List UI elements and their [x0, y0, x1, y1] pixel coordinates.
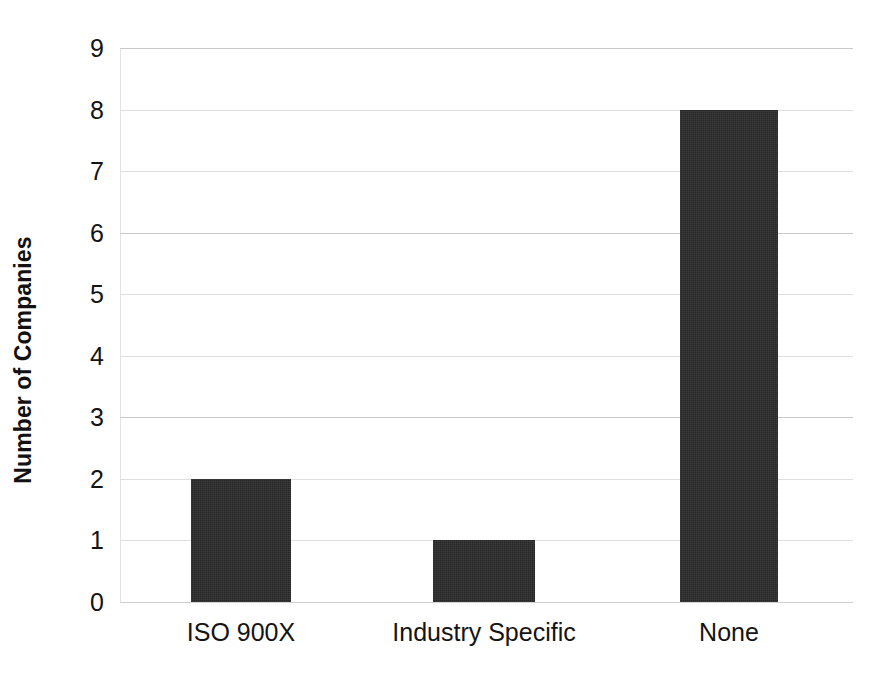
y-axis-tick-4: 4 — [58, 343, 104, 368]
y-axis-tick-0: 0 — [58, 590, 104, 615]
y-axis-tick-8: 8 — [58, 97, 104, 122]
y-axis-tick-1: 1 — [58, 528, 104, 553]
y-axis-tick-9: 9 — [58, 36, 104, 61]
bar-iso-900x[interactable] — [191, 479, 291, 602]
y-axis-tick-7: 7 — [58, 159, 104, 184]
y-axis-title-label: Number of Companies — [10, 236, 37, 483]
x-axis-tick-iso-900x: ISO 900X — [187, 618, 295, 647]
plot-area — [120, 48, 853, 602]
y-axis-tick-5: 5 — [58, 282, 104, 307]
x-axis-tick-industry-specific: Industry Specific — [392, 618, 575, 647]
y-axis-line — [120, 48, 121, 602]
y-axis-tick-labels: 9876543210 — [58, 48, 104, 602]
y-axis-tick-6: 6 — [58, 220, 104, 245]
y-axis-title: Number of Companies — [0, 0, 46, 698]
bar-industry-specific[interactable] — [433, 540, 535, 602]
bar-chart: Number of Companies 9876543210 ISO 900XI… — [0, 0, 891, 698]
x-axis-tick-labels: ISO 900XIndustry SpecificNone — [120, 618, 853, 668]
x-axis-tick-none: None — [699, 618, 759, 647]
y-axis-tick-2: 2 — [58, 466, 104, 491]
y-axis-tick-3: 3 — [58, 405, 104, 430]
gridline-0 — [120, 602, 853, 603]
bar-none[interactable] — [680, 110, 778, 602]
gridline-9 — [120, 48, 853, 49]
